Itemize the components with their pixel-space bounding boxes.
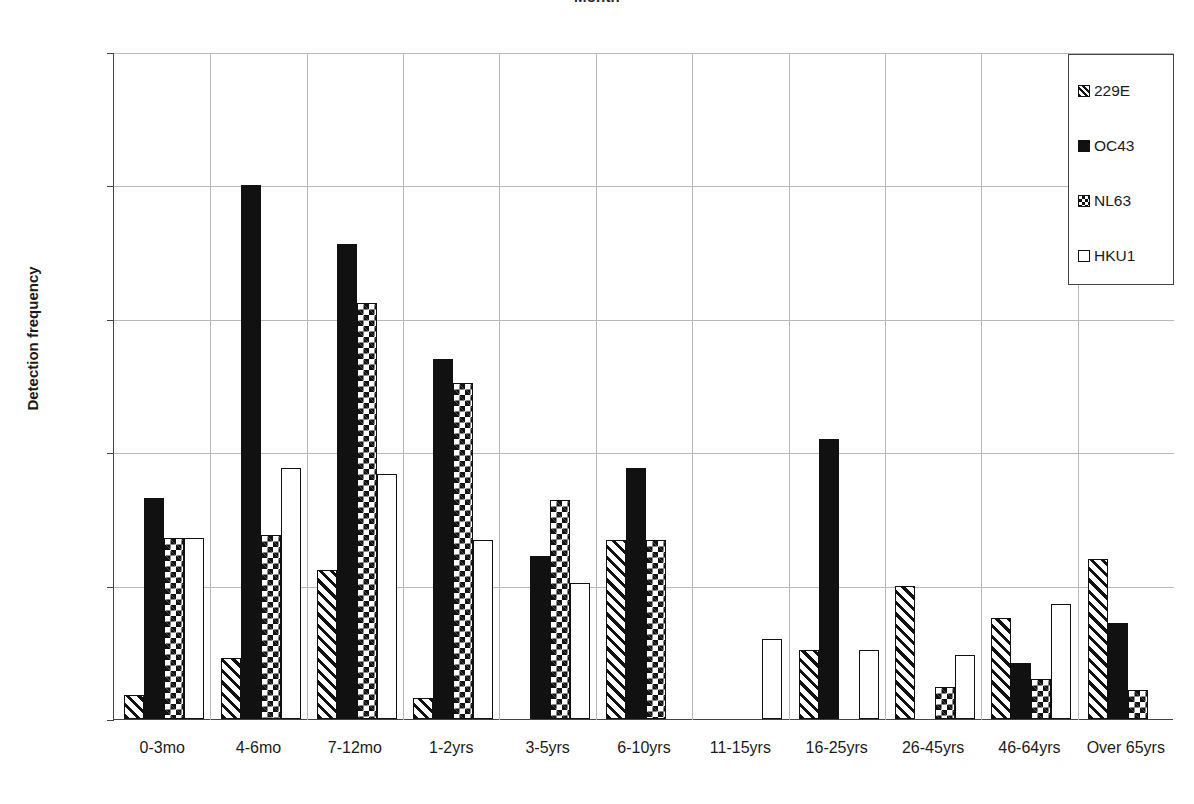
chart-title: Month xyxy=(0,0,1194,4)
y-tick-mark xyxy=(107,53,114,54)
bar-229e-7-12mo xyxy=(317,570,337,719)
bar-oc43-7-12mo xyxy=(337,244,357,719)
bar-hku1-1-2yrs xyxy=(473,540,493,719)
solid-swatch-icon xyxy=(1078,140,1090,152)
plot-area: 00.0050.010.0150.020.0250-3mo4-6mo7-12mo… xyxy=(113,53,1173,720)
bar-oc43-4-6mo xyxy=(241,185,261,719)
bar-nl63-26-45yrs xyxy=(935,687,955,719)
legend-item-label: HKU1 xyxy=(1094,247,1135,265)
x-tick-label: 3-5yrs xyxy=(499,739,595,757)
bar-nl63-7-12mo xyxy=(357,303,377,719)
bar-group xyxy=(114,52,210,719)
chart-canvas: Month Detection frequency 00.0050.010.01… xyxy=(0,0,1194,804)
bar-nl63-3-5yrs xyxy=(550,500,570,719)
legend-item-oc43[interactable]: OC43 xyxy=(1078,136,1135,156)
bar-oc43-3-5yrs xyxy=(530,556,550,719)
bar-229e-46-64yrs xyxy=(991,618,1011,719)
legend-item-hku1[interactable]: HKU1 xyxy=(1078,246,1135,266)
hatch-swatch-icon xyxy=(1078,85,1090,97)
bar-229e-1-2yrs xyxy=(413,698,433,719)
legend-item-label: OC43 xyxy=(1094,137,1135,155)
x-tick-label: 46-64yrs xyxy=(981,739,1077,757)
y-axis-title: Detection frequency xyxy=(24,229,41,449)
bar-229e-4-6mo xyxy=(221,658,241,719)
x-tick-label: 6-10yrs xyxy=(596,739,692,757)
bar-229e-16-25yrs xyxy=(799,650,819,719)
bar-hku1-4-6mo xyxy=(281,468,301,719)
bar-hku1-26-45yrs xyxy=(955,655,975,719)
bar-229e-6-10yrs xyxy=(606,540,626,719)
x-tick-label: Over 65yrs xyxy=(1078,739,1174,757)
bar-hku1-7-12mo xyxy=(377,474,397,719)
x-tick-label: 4-6mo xyxy=(210,739,306,757)
bar-229e-0-3mo xyxy=(124,695,144,719)
legend-item-label: NL63 xyxy=(1094,192,1131,210)
empty-swatch-icon xyxy=(1078,250,1090,262)
bar-hku1-3-5yrs xyxy=(570,583,590,719)
bar-group xyxy=(981,52,1077,719)
bar-group xyxy=(885,52,981,719)
bar-group xyxy=(596,52,692,719)
bar-oc43-0-3mo xyxy=(144,498,164,719)
bar-nl63-1-2yrs xyxy=(453,383,473,719)
x-tick-label: 0-3mo xyxy=(114,739,210,757)
y-tick-mark xyxy=(107,720,114,721)
bar-group xyxy=(692,52,788,719)
checker-swatch-icon xyxy=(1078,195,1090,207)
bar-hku1-11-15yrs xyxy=(762,639,782,719)
bar-nl63-0-3mo xyxy=(164,538,184,719)
bar-oc43-over-65yrs xyxy=(1108,623,1128,719)
bar-nl63-6-10yrs xyxy=(646,540,666,719)
bar-229e-26-45yrs xyxy=(895,586,915,719)
legend-item-nl63[interactable]: NL63 xyxy=(1078,191,1131,211)
y-tick-mark xyxy=(107,587,114,588)
bar-group xyxy=(403,52,499,719)
bar-hku1-46-64yrs xyxy=(1051,604,1071,719)
legend-item-label: 229E xyxy=(1094,82,1130,100)
bar-group xyxy=(307,52,403,719)
x-tick-label: 26-45yrs xyxy=(885,739,981,757)
x-tick-label: 11-15yrs xyxy=(692,739,788,757)
x-tick-label: 16-25yrs xyxy=(789,739,885,757)
y-tick-mark xyxy=(107,320,114,321)
bar-group xyxy=(210,52,306,719)
x-tick-label: 1-2yrs xyxy=(403,739,499,757)
bar-group xyxy=(789,52,885,719)
bar-229e-over-65yrs xyxy=(1088,559,1108,719)
bar-nl63-4-6mo xyxy=(261,535,281,719)
bar-nl63-46-64yrs xyxy=(1031,679,1051,719)
bar-oc43-1-2yrs xyxy=(433,359,453,719)
bar-oc43-6-10yrs xyxy=(626,468,646,719)
bar-oc43-46-64yrs xyxy=(1011,663,1031,719)
legend-item-229e[interactable]: 229E xyxy=(1078,81,1130,101)
bar-oc43-16-25yrs xyxy=(819,439,839,719)
bar-nl63-over-65yrs xyxy=(1128,690,1148,719)
x-tick-label: 7-12mo xyxy=(307,739,403,757)
bar-hku1-0-3mo xyxy=(184,538,204,719)
bar-hku1-16-25yrs xyxy=(859,650,879,719)
bar-group xyxy=(499,52,595,719)
y-tick-mark xyxy=(107,186,114,187)
y-tick-mark xyxy=(107,453,114,454)
chart-legend: 229EOC43NL63HKU1 xyxy=(1068,54,1174,285)
